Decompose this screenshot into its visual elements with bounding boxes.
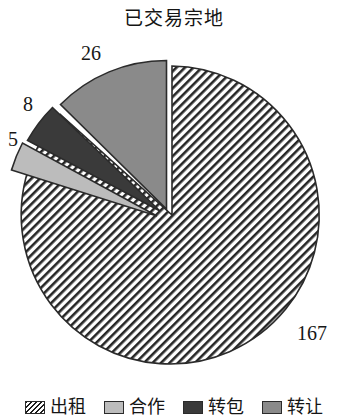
slice-value-label-rent: 167 [297, 322, 327, 344]
legend-item-subcontract[interactable]: 转包 [183, 397, 244, 417]
slice-value-label-subcontract: 8 [23, 93, 33, 115]
pie-plot-area [0, 30, 347, 385]
chart-legend: 出租 合作 转包 转让 [0, 397, 347, 419]
legend-label-subcontract: 转包 [208, 397, 244, 417]
pie-svg [0, 30, 347, 385]
legend-swatch-medium-gray-icon [262, 401, 282, 414]
legend-label-cooperation: 合作 [129, 397, 165, 417]
legend-swatch-light-gray-icon [104, 401, 124, 414]
slice-value-label-transfer: 26 [81, 42, 101, 64]
legend-label-transfer: 转让 [287, 397, 323, 417]
chart-title: 已交易宗地 [0, 6, 347, 32]
slice-value-label-cooperation: 5 [8, 128, 18, 150]
legend-item-rent[interactable]: 出租 [25, 397, 86, 417]
legend-item-transfer[interactable]: 转让 [262, 397, 323, 417]
legend-item-cooperation[interactable]: 合作 [104, 397, 165, 417]
pie-chart-figure: 已交易宗地 26 8 5 167 出租 [0, 0, 347, 419]
legend-swatch-dark-gray-icon [183, 401, 203, 414]
legend-swatch-hatch-icon [25, 401, 45, 414]
legend-label-rent: 出租 [50, 397, 86, 417]
